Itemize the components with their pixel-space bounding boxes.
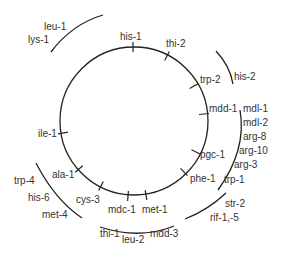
marker-tick — [145, 190, 147, 200]
marker-label: cys-3 — [76, 194, 100, 205]
outer-gene-label: arg-10 — [239, 145, 268, 156]
outer-gene-label: leu-1 — [44, 21, 67, 32]
marker-ticks — [58, 42, 209, 201]
outer-gene-label: his-6 — [28, 192, 50, 203]
outer-gene-label: rif-1,-5 — [210, 212, 239, 223]
outer-gene-label: lys-1 — [28, 34, 50, 45]
chromosome-circle — [60, 47, 208, 195]
marker-tick — [180, 168, 187, 175]
outer-gene-label: trp-1 — [224, 174, 245, 185]
marker-label: mdd-1 — [209, 103, 238, 114]
marker-label: ile-1 — [38, 128, 57, 139]
outer-gene-label: arg-8 — [243, 131, 267, 142]
outer-gene-label: trp-4 — [14, 175, 35, 186]
marker-tick — [128, 191, 129, 201]
marker-tick — [58, 132, 68, 134]
marker-label: ala-1 — [52, 169, 75, 180]
marker-label: met-1 — [142, 204, 168, 215]
outer-gene-label: mdl-2 — [243, 117, 268, 128]
marker-label: mdc-1 — [108, 204, 136, 215]
marker-label: pgc-1 — [200, 149, 225, 160]
marker-tick — [190, 83, 199, 88]
marker-label: trp-2 — [200, 74, 221, 85]
outer-gene-label: his-2 — [234, 71, 256, 82]
marker-label: phe-1 — [190, 173, 216, 184]
outer-gene-label: leu-2 — [122, 234, 145, 245]
outer-gene-label: met-4 — [42, 209, 68, 220]
outer-gene-label: thi-1 — [100, 228, 120, 239]
marker-label: his-1 — [120, 31, 142, 42]
genetic-map: his-1thi-2trp-2mdd-1pgc-1phe-1met-1mdc-1… — [0, 0, 282, 259]
outer-gene-label: arg-3 — [234, 159, 258, 170]
outer-gene-label: mdd-3 — [150, 228, 179, 239]
outer-gene-label: mdl-1 — [243, 103, 268, 114]
marker-label: thi-2 — [166, 38, 186, 49]
outer-gene-label: str-2 — [225, 198, 245, 209]
